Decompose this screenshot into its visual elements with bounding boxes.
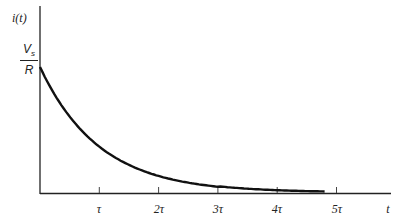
vs-label: V xyxy=(23,42,31,56)
decay-curve xyxy=(40,67,325,192)
chart: i(t) Vs R τ 2τ 3τ 4τ 5τ t xyxy=(0,0,411,220)
tick-label-1: τ xyxy=(97,203,101,215)
x-axis-label: t xyxy=(386,203,389,215)
vs-over-r-label: Vs R xyxy=(20,42,38,77)
tick-label-5: 5τ xyxy=(332,203,342,215)
tick-label-4: 4τ xyxy=(272,203,282,215)
y-axis-label: i(t) xyxy=(12,12,27,24)
plot-area xyxy=(0,0,411,220)
vs-subscript: s xyxy=(31,49,35,58)
r-label: R xyxy=(20,61,38,77)
tick-label-3: 3τ xyxy=(213,203,223,215)
tick-label-2: 2τ xyxy=(154,203,164,215)
